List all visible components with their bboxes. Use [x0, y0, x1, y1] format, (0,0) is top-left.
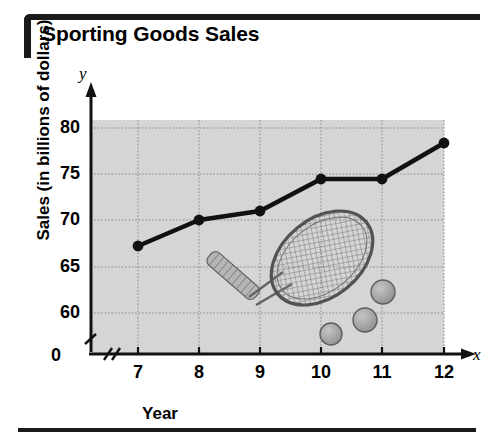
y-tick-label: 75 [46, 163, 80, 184]
x-tick-label: 12 [427, 362, 461, 383]
x-axis-arrowhead [461, 349, 476, 360]
x-tick-label: 9 [243, 362, 277, 383]
data-point [194, 215, 205, 226]
x-tick-label: 7 [121, 362, 155, 383]
y-axis-arrowhead [86, 82, 97, 97]
y-tick-label: 80 [46, 117, 80, 138]
data-point [133, 241, 144, 252]
y-tick-label: 65 [46, 256, 80, 277]
plot-background [91, 120, 444, 354]
page-bottom-rule [18, 428, 476, 432]
data-point [255, 206, 266, 217]
data-point [316, 174, 327, 185]
y-tick-label: 70 [46, 209, 80, 230]
data-point [377, 174, 388, 185]
x-tick-label: 11 [365, 362, 399, 383]
data-point [439, 138, 450, 149]
x-tick-label: 10 [304, 362, 338, 383]
x-tick-label: 8 [182, 362, 216, 383]
y-tick-label: 60 [46, 302, 80, 323]
